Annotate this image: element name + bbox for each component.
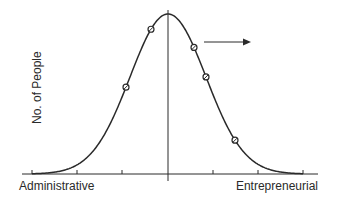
x-axis-right-label: Entrepreneurial (236, 179, 318, 193)
marker-right-middle (203, 74, 209, 80)
marker-left-lower (123, 84, 129, 90)
arrow-head-icon (243, 39, 251, 46)
marker-right-upper (191, 44, 197, 50)
bell-curve-diagram: No. of People Administrative Entrepreneu… (0, 0, 337, 201)
y-axis-label: No. of People (30, 51, 44, 124)
curve-markers (123, 26, 238, 143)
marker-right-lower (232, 137, 238, 143)
x-axis-left-label: Administrative (19, 179, 95, 193)
marker-left-upper (148, 26, 154, 32)
annotation-arrow (204, 39, 251, 46)
